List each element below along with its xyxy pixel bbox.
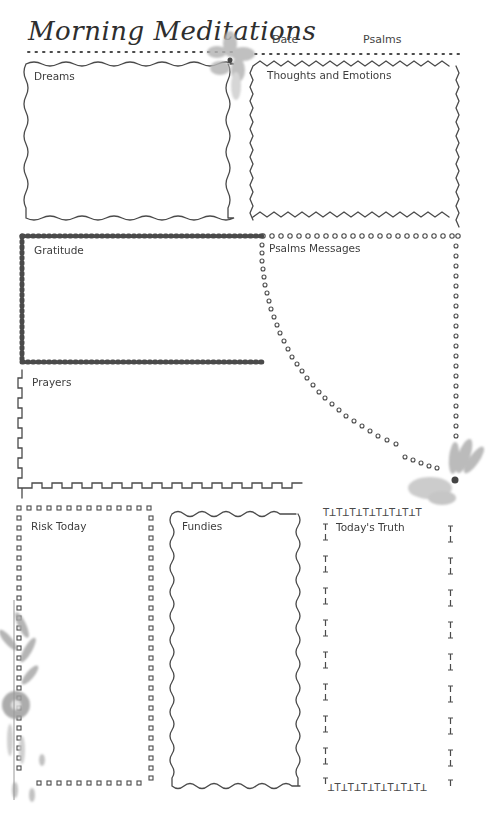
dreams-section[interactable]: Dreams <box>26 64 228 218</box>
fundies-label: Fundies <box>182 520 222 532</box>
flower-top-center-icon <box>228 58 233 63</box>
fundies-section[interactable]: Fundies <box>172 514 298 786</box>
psalms-messages-section[interactable]: Psalms Messages <box>262 236 456 466</box>
thoughts-emotions-label: Thoughts and Emotions <box>267 69 391 81</box>
svg-text:ꓕTꓕTꓕTꓕTꓕTꓕTꓕTꓕ: ꓕTꓕTꓕTꓕTꓕTꓕTꓕTꓕ <box>327 782 428 793</box>
todays-truth-section[interactable]: Today's Truth <box>328 518 448 780</box>
psalms-messages-label: Psalms Messages <box>269 242 361 254</box>
svg-text:TꓕTꓕTꓕTꓕTꓕTꓕTꓕT: TꓕTꓕTꓕTꓕTꓕTꓕTꓕT <box>322 507 423 518</box>
gratitude-label: Gratitude <box>34 244 84 256</box>
gratitude-section[interactable]: Gratitude <box>22 236 262 362</box>
risk-today-section[interactable]: Risk Today <box>21 510 149 781</box>
thoughts-emotions-section[interactable]: Thoughts and Emotions <box>253 62 456 217</box>
todays-truth-label: Today's Truth <box>336 521 405 533</box>
prayers-label: Prayers <box>32 376 71 388</box>
risk-today-label: Risk Today <box>31 520 86 532</box>
dreams-label: Dreams <box>34 70 75 82</box>
prayers-section[interactable]: Prayers <box>22 368 262 488</box>
flower-right-center-icon <box>452 477 459 484</box>
